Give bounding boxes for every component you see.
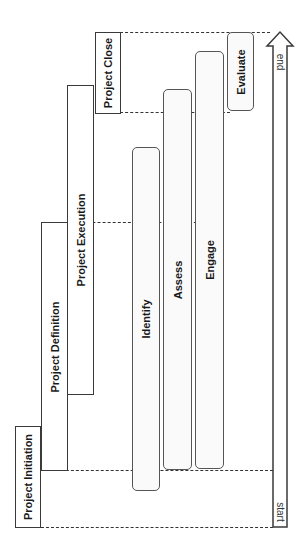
timeline-arrow-icon <box>0 0 308 560</box>
stakeholder-process-diagram: Project Initiation Project Definition Pr… <box>0 0 308 560</box>
timeline-start-label: start <box>275 502 286 521</box>
timeline-end-label: end <box>275 54 286 71</box>
